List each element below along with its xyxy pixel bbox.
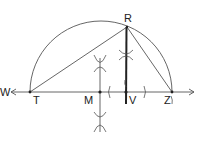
semicircle-arc <box>30 21 172 92</box>
point-Z <box>171 91 174 94</box>
arc-mark-z <box>171 96 172 104</box>
segment-RZ <box>127 27 172 92</box>
point-T <box>29 91 32 94</box>
label-V: V <box>129 94 137 106</box>
label-T: T <box>33 94 40 106</box>
geometry-diagram: W T M V Z R <box>0 0 201 142</box>
point-M <box>98 90 101 93</box>
point-R <box>126 26 128 28</box>
segment-TR <box>30 27 127 92</box>
point-V <box>124 90 127 93</box>
label-M: M <box>84 94 93 106</box>
label-W: W <box>0 86 11 98</box>
label-R: R <box>124 12 132 24</box>
label-Z: Z <box>164 94 171 106</box>
